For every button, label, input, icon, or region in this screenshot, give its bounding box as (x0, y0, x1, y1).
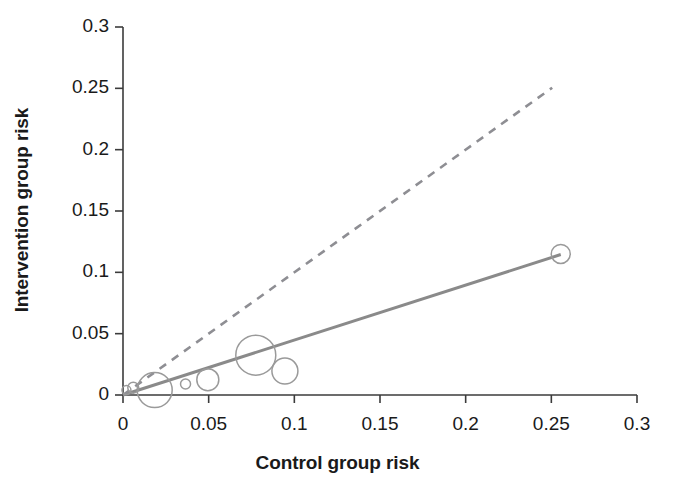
regression-line (123, 255, 561, 395)
x-tick-label: 0.05 (174, 413, 244, 435)
y-tick-label: 0.15 (37, 199, 109, 221)
data-bubble (181, 379, 191, 389)
y-tick-label: 0.2 (37, 138, 109, 160)
bubble-plot-figure: Intervention group risk Control group ri… (0, 0, 675, 500)
data-bubble (197, 369, 219, 391)
x-tick-label: 0 (88, 413, 158, 435)
x-tick-label: 0.15 (345, 413, 415, 435)
y-tick-label: 0.25 (37, 76, 109, 98)
data-bubble (272, 358, 298, 384)
data-bubble (551, 244, 570, 263)
x-tick-label: 0.2 (431, 413, 501, 435)
x-tick-label: 0.1 (259, 413, 329, 435)
data-bubble (236, 335, 276, 375)
data-bubbles (122, 244, 570, 407)
x-tick-label: 0.25 (516, 413, 586, 435)
line-of-equality (123, 88, 552, 395)
y-tick-label: 0.05 (37, 322, 109, 344)
axes (115, 27, 637, 403)
trend-lines (123, 88, 561, 395)
y-tick-label: 0 (37, 383, 109, 405)
y-tick-label: 0.1 (37, 260, 109, 282)
x-tick-label: 0.3 (602, 413, 672, 435)
y-tick-label: 0.3 (37, 15, 109, 37)
x-axis-label: Control group risk (0, 452, 675, 474)
y-axis-label: Intervention group risk (11, 108, 33, 313)
